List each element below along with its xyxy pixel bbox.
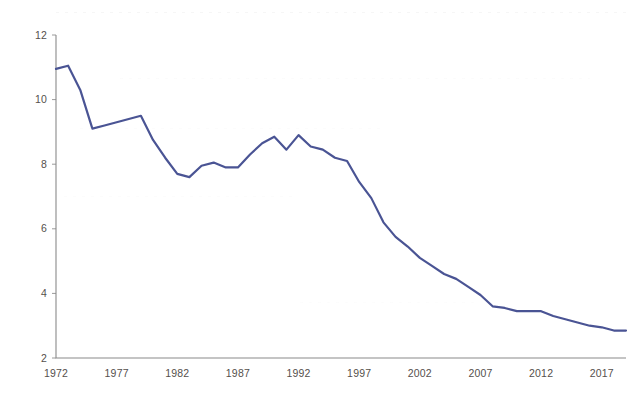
chart-background	[0, 0, 639, 406]
y-tick-label: 2	[41, 352, 47, 364]
x-tick-label: 1972	[44, 367, 68, 379]
y-tick-label: 8	[41, 158, 47, 170]
x-tick-label: 1977	[105, 367, 129, 379]
line-chart-svg: 24681012 1972197719821987199219972002200…	[0, 0, 639, 406]
x-tick-label: 2002	[408, 367, 432, 379]
x-tick-label: 1997	[347, 367, 371, 379]
y-tick-label: 6	[41, 222, 47, 234]
y-tick-label: 4	[41, 287, 47, 299]
x-tick-label: 1992	[286, 367, 310, 379]
y-tick-label: 12	[35, 29, 47, 41]
x-tick-label: 2017	[590, 367, 614, 379]
x-tick-label: 2007	[468, 367, 492, 379]
chart-container: 24681012 1972197719821987199219972002200…	[0, 0, 639, 406]
x-tick-label: 1987	[226, 367, 250, 379]
y-tick-label: 10	[35, 93, 47, 105]
x-tick-label: 1982	[165, 367, 189, 379]
x-tick-label: 2012	[529, 367, 553, 379]
